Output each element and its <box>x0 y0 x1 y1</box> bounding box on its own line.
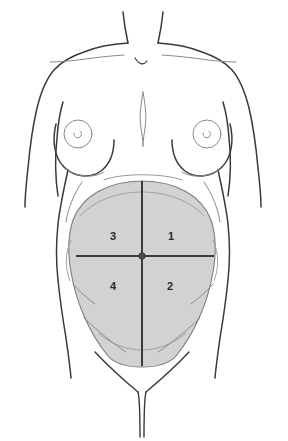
umbilicus-marker <box>139 253 145 259</box>
quadrant-label-2: 2 <box>167 280 173 292</box>
quadrant-label-1: 1 <box>168 230 174 242</box>
anatomy-illustration: 1 2 3 4 <box>0 0 288 441</box>
abdominal-quadrants-figure: 1 2 3 4 <box>0 0 288 441</box>
quadrant-label-4: 4 <box>110 280 117 292</box>
quadrant-label-3: 3 <box>110 230 116 242</box>
